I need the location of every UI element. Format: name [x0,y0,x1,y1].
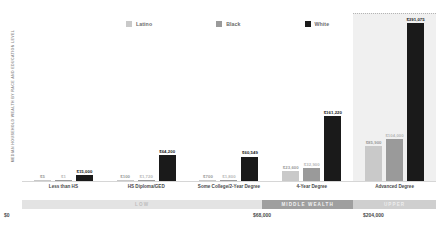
baseline-axis [22,181,436,182]
bar-rect[interactable] [365,146,382,181]
bar-latino-0[interactable]: $5 [34,14,51,181]
bar-white-3[interactable]: $161,220 [324,14,341,181]
bar-rect[interactable] [76,175,93,181]
wealth-segment-label: Low [135,202,149,207]
bar-value-label: $64,200 [159,149,175,154]
bar-black-4[interactable]: $104,000 [386,14,403,181]
bar-rect[interactable] [303,168,320,181]
bar-group: $100$1,720$64,200 [105,14,188,181]
bar-value-label: $32,900 [304,162,320,167]
bar-groups: $5$1$15,000$100$1,720$64,200$700$1,800$6… [22,14,436,181]
bar-value-label: $85,900 [366,140,382,145]
chart-container: MEDIAN HOUSEHOLD WEALTH BY RACE AND EDUC… [0,0,440,230]
bar-group: $85,900$104,000$391,075 [353,14,436,181]
wealth-tick: $204,000 [363,212,384,218]
bar-value-label: $5 [40,174,45,179]
bar-value-label: $1,800 [222,174,235,179]
y-axis-title-text: MEDIAN HOUSEHOLD WEALTH BY RACE AND EDUC… [11,30,15,163]
bar-value-label: $15,000 [76,169,92,174]
bar-rect[interactable] [117,180,134,181]
bar-black-1[interactable]: $1,720 [138,14,155,181]
wealth-segment-upper[interactable]: Upper [353,200,436,209]
bar-white-2[interactable]: $60,549 [241,14,258,181]
bar-rect[interactable] [241,157,258,181]
wealth-segment-label: Middle Wealth [281,202,334,207]
wealth-tick: $68,000 [253,212,271,218]
bar-rect[interactable] [34,180,51,181]
bar-value-label: $161,220 [324,110,342,115]
bar-value-label: $100 [120,174,130,179]
bar-black-2[interactable]: $1,800 [220,14,237,181]
wealth-tick: $0 [4,212,10,218]
wealth-segment-middle-wealth[interactable]: Middle Wealth [262,200,353,209]
bar-value-label: $1,720 [139,174,152,179]
bar-rect[interactable] [55,180,72,181]
wealth-segment-label: Upper [384,202,405,207]
bar-white-0[interactable]: $15,000 [76,14,93,181]
bar-group: $5$1$15,000 [22,14,105,181]
bar-value-label: $700 [203,174,213,179]
wealth-segment-low[interactable]: Low [22,200,262,209]
bar-rect[interactable] [282,171,299,181]
bar-black-3[interactable]: $32,900 [303,14,320,181]
bar-white-4[interactable]: $391,075 [407,14,424,181]
bar-value-label: $104,000 [385,133,403,138]
bar-rect[interactable] [220,180,237,181]
bar-value-label: $391,075 [406,17,424,22]
wealth-band-ticks: $0$68,000$204,000 [0,212,440,222]
category-label: Advanced Degree [353,184,436,194]
bar-value-label: $1 [61,174,66,179]
bar-value-label: $23,600 [283,165,299,170]
plot-area: $5$1$15,000$100$1,720$64,200$700$1,800$6… [22,14,436,182]
wealth-band: LowMiddle WealthUpper [22,200,436,209]
bar-black-0[interactable]: $1 [55,14,72,181]
bar-value-label: $60,549 [242,150,258,155]
bar-rect[interactable] [324,116,341,181]
bar-rect[interactable] [159,155,176,181]
category-labels: Less than HSHS Diploma/GEDSome College/2… [22,184,436,194]
bar-latino-2[interactable]: $700 [199,14,216,181]
bar-rect[interactable] [199,180,216,181]
bar-rect[interactable] [138,180,155,181]
bar-white-1[interactable]: $64,200 [159,14,176,181]
bar-group: $700$1,800$60,549 [188,14,271,181]
bar-rect[interactable] [386,139,403,181]
bar-rect[interactable] [407,23,424,181]
y-axis-title: MEDIAN HOUSEHOLD WEALTH BY RACE AND EDUC… [6,8,20,184]
bar-group: $23,600$32,900$161,220 [270,14,353,181]
bar-latino-3[interactable]: $23,600 [282,14,299,181]
category-label: HS Diploma/GED [105,184,188,194]
bar-latino-4[interactable]: $85,900 [365,14,382,181]
category-label: Some College/2-Year Degree [188,184,271,194]
bar-latino-1[interactable]: $100 [117,14,134,181]
category-label: Less than HS [22,184,105,194]
category-label: 4-Year Degree [270,184,353,194]
